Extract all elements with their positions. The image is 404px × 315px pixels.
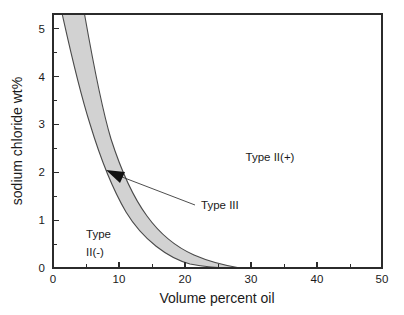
x-tick-label-4: 40 (311, 273, 324, 285)
y-tick-label-3: 3 (39, 118, 45, 130)
region-label-type-ii-minus-line1: Type (86, 228, 111, 240)
chart-figure: 0 10 20 30 40 50 0 1 2 3 4 5 Volume perc… (0, 0, 404, 315)
x-tick-label-1: 10 (113, 273, 126, 285)
y-tick-label-1: 1 (39, 214, 45, 226)
y-tick-label-2: 2 (39, 166, 45, 178)
y-axis-tick-labels: 0 1 2 3 4 5 (39, 23, 46, 275)
x-axis-tick-labels: 0 10 20 30 40 50 (50, 273, 389, 285)
x-tick-label-5: 50 (376, 273, 389, 285)
y-tick-label-4: 4 (39, 71, 46, 83)
y-tick-label-5: 5 (39, 23, 45, 35)
x-tick-label-3: 30 (245, 273, 258, 285)
x-tick-label-2: 20 (179, 273, 192, 285)
x-tick-label-0: 0 (50, 273, 56, 285)
region-label-type-ii-minus-line2: II(-) (86, 246, 104, 258)
region-label-type-iii: Type III (201, 199, 239, 211)
region-label-type-ii-plus: Type II(+) (246, 151, 295, 163)
phase-diagram-plot: 0 10 20 30 40 50 0 1 2 3 4 5 Volume perc… (0, 0, 404, 315)
y-axis-title: sodium chloride wt% (9, 77, 25, 205)
x-axis-title: Volume percent oil (159, 290, 274, 306)
y-tick-label-0: 0 (39, 262, 45, 274)
